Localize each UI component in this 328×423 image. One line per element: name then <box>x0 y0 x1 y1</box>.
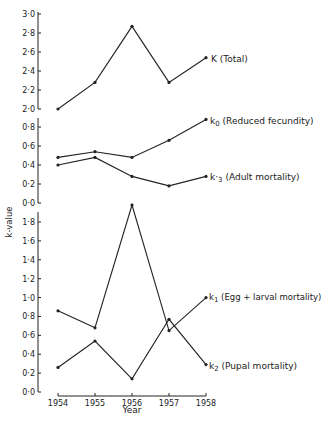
series-line <box>58 119 206 157</box>
data-point <box>167 318 170 321</box>
data-point <box>167 329 170 332</box>
data-point <box>167 139 170 142</box>
data-point <box>167 184 170 187</box>
data-point <box>56 163 59 166</box>
data-point <box>167 81 170 84</box>
series-label-k1: k1 (Egg + larval mortality) <box>209 292 321 304</box>
data-point <box>93 339 96 342</box>
data-point <box>130 156 133 159</box>
y-tick-label: 2·6 <box>22 48 35 57</box>
series-lines <box>56 25 207 381</box>
data-point <box>93 156 96 159</box>
x-tick-label: 1954 <box>48 399 68 408</box>
y-tick-label: 2·4 <box>22 67 35 76</box>
series-line <box>58 319 206 379</box>
y-tick-label: 2·0 <box>22 105 35 114</box>
data-point <box>93 326 96 329</box>
data-point <box>93 150 96 153</box>
data-point <box>56 366 59 369</box>
data-point <box>204 118 207 121</box>
data-point <box>130 25 133 28</box>
y-tick-label: 1·4 <box>22 256 35 265</box>
x-tick-label: 1958 <box>196 399 216 408</box>
y-tick-label: 1·2 <box>22 275 35 284</box>
data-point <box>56 309 59 312</box>
x-tick-label: 1955 <box>85 399 105 408</box>
data-point <box>204 175 207 178</box>
x-tick-label: 1957 <box>159 399 179 408</box>
data-point <box>204 296 207 299</box>
data-point <box>130 175 133 178</box>
data-point <box>56 107 59 110</box>
series-label-k3: k·3 (Adult mortality) <box>210 172 300 184</box>
y-tick-label: 0·6 <box>22 331 35 340</box>
data-point <box>56 156 59 159</box>
k-value-chart: 2·02·22·42·62·83·00·00·20·40·60·80·00·20… <box>0 0 328 423</box>
y-tick-label: 1·6 <box>22 237 35 246</box>
y-tick-label: 0·6 <box>22 142 35 151</box>
y-tick-label: 0·2 <box>22 180 35 189</box>
data-point <box>204 363 207 366</box>
series-label-k0: k0 (Reduced fecundity) <box>210 116 314 128</box>
data-point <box>204 56 207 59</box>
data-point <box>130 203 133 206</box>
series-line <box>58 205 206 331</box>
y-axis-label: k-value <box>4 207 14 238</box>
y-tick-label: 0·8 <box>22 312 35 321</box>
y-tick-label: 2·8 <box>22 29 35 38</box>
series-label-k2: k2 (Pupal mortality) <box>209 361 297 373</box>
series-line <box>58 157 206 186</box>
series-label-K: K (Total) <box>211 54 248 64</box>
data-point <box>130 377 133 380</box>
y-tick-label: 0·4 <box>22 161 35 170</box>
y-tick-label: 0·4 <box>22 350 35 359</box>
y-tick-label: 0·8 <box>22 123 35 132</box>
data-point <box>93 81 96 84</box>
y-tick-label: 1·0 <box>22 294 35 303</box>
y-tick-label: 1·8 <box>22 218 35 227</box>
y-tick-label: 0·2 <box>22 369 35 378</box>
y-tick-label: 3·0 <box>22 10 35 19</box>
series-labels: K (Total) k0 (Reduced fecundity) k·3 (Ad… <box>209 54 321 373</box>
series-line <box>58 26 206 109</box>
y-tick-label: 0·0 <box>22 388 35 397</box>
y-tick-label: 2·2 <box>22 86 35 95</box>
x-axis-label: Year <box>121 405 141 415</box>
y-tick-label: 0·0 <box>22 199 35 208</box>
